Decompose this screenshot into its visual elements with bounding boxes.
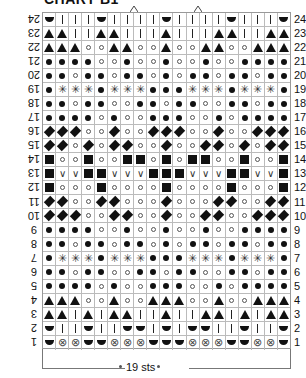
- chart-cell: [134, 280, 147, 293]
- chart-cell: [134, 209, 147, 222]
- chart-cell: ✳: [56, 83, 69, 96]
- chart-cell: ⊗: [69, 336, 82, 350]
- chart-cell: [43, 308, 56, 321]
- chart-cell: [278, 266, 290, 279]
- chart-cell: [56, 13, 69, 26]
- chart-cell: ⊗: [108, 336, 121, 350]
- chart-row: [43, 195, 290, 209]
- dot-small-ring-icon: [203, 101, 208, 106]
- dot-large-icon: [46, 87, 52, 93]
- chart-cell: [134, 153, 147, 166]
- chart-cell: [239, 294, 252, 307]
- dot-small-ring-icon: [138, 115, 143, 120]
- chart-cell: [239, 125, 252, 138]
- dot-small-ring-icon: [86, 185, 91, 190]
- chart-cell: ✳: [121, 252, 134, 265]
- chart-cell: [43, 322, 56, 335]
- dot-large-icon: [46, 255, 52, 261]
- chart-cell: [187, 238, 200, 251]
- purl-half-circle-icon: [201, 326, 210, 331]
- dot-large-icon: [190, 101, 196, 107]
- chart-cell: [160, 209, 173, 222]
- chart-cell: [56, 41, 69, 54]
- chart-cell: [173, 83, 186, 96]
- chart-cell: [95, 83, 108, 96]
- chart-row: [43, 238, 290, 252]
- chart-cell: [160, 27, 173, 40]
- chart-cell: [134, 125, 147, 138]
- dot-small-ring-icon: [125, 270, 130, 275]
- row-number-right: 4: [294, 293, 300, 307]
- dot-small-ring-icon: [73, 101, 78, 106]
- dot-large-icon: [163, 73, 169, 79]
- purl-half-circle-icon: [162, 17, 171, 22]
- chart-cell: [69, 111, 82, 124]
- chart-cell: [200, 308, 213, 321]
- chart-cell: [56, 322, 69, 335]
- purl-half-circle-icon: [240, 326, 249, 331]
- chart-cell: [173, 238, 186, 251]
- triangle-icon: [70, 43, 80, 52]
- chart-cell: [200, 55, 213, 68]
- dot-large-icon: [85, 115, 91, 121]
- chart-cell: [173, 209, 186, 222]
- chart-cell: [69, 97, 82, 110]
- dot-large-icon: [176, 115, 182, 121]
- chart-cell: [226, 209, 239, 222]
- chart-cell: [69, 69, 82, 82]
- chart-cell: ✳: [187, 252, 200, 265]
- chart-cell: [239, 55, 252, 68]
- knit-bar-icon: [101, 324, 102, 333]
- chart-cell: [95, 181, 108, 194]
- chart-cell: [95, 55, 108, 68]
- dot-large-icon: [124, 227, 130, 233]
- chart-cell: [252, 125, 265, 138]
- row-number-left: 13: [28, 166, 40, 180]
- asterisk-icon: ✳: [123, 253, 132, 264]
- square-icon: [162, 169, 171, 178]
- chart-cell: [82, 13, 95, 26]
- dot-small-ring-icon: [229, 227, 234, 232]
- circle-x-icon: ⊗: [253, 337, 262, 348]
- dot-large-icon: [85, 227, 91, 233]
- dot-small-ring-icon: [151, 143, 156, 148]
- chart-cell: [173, 97, 186, 110]
- triangle-icon: [96, 29, 106, 38]
- triangle-icon: [279, 310, 289, 319]
- dot-large-icon: [242, 283, 248, 289]
- chart-cell: [173, 336, 186, 350]
- diamond-icon: [56, 196, 67, 207]
- chart-cell: ✳: [252, 83, 265, 96]
- dot-small-ring-icon: [86, 298, 91, 303]
- row-number-right: 20: [294, 68, 306, 82]
- chart-row: [43, 294, 290, 308]
- row-number-left: 19: [28, 82, 40, 96]
- chart-cell: [265, 13, 278, 26]
- knit-bar-icon: [75, 310, 76, 319]
- purl-half-circle-icon: [97, 340, 106, 345]
- diamond-icon: [161, 126, 172, 137]
- chart-cell: [82, 55, 95, 68]
- chart-cell: [278, 27, 290, 40]
- row-number-left: 23: [28, 26, 40, 40]
- dot-small-ring-icon: [242, 129, 247, 134]
- chart-cell: [252, 280, 265, 293]
- chart-cell: ⊗: [213, 336, 226, 350]
- dot-small-ring-icon: [125, 185, 130, 190]
- chart-cell: [278, 238, 290, 251]
- chart-cell: [252, 55, 265, 68]
- diamond-icon: [56, 126, 67, 137]
- row-number-right: 21: [294, 54, 306, 68]
- dot-small-ring-icon: [190, 185, 195, 190]
- dot-large-icon: [85, 283, 91, 289]
- dot-large-icon: [281, 73, 287, 79]
- dot-small-ring-icon: [99, 298, 104, 303]
- chart-cell: [160, 322, 173, 335]
- dot-small-ring-icon: [73, 157, 78, 162]
- dot-small-ring-icon: [138, 185, 143, 190]
- dot-small-ring-icon: [190, 45, 195, 50]
- dot-large-icon: [150, 101, 156, 107]
- chart-cell: [56, 125, 69, 138]
- chart-cell: [108, 97, 121, 110]
- chart-row: [43, 55, 290, 69]
